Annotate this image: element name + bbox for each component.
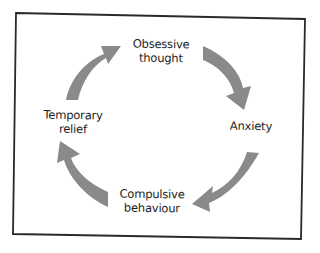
node-temporary-relief-line2: relief: [38, 122, 108, 137]
node-obsessive-thought-line2: thought: [126, 51, 196, 66]
node-anxiety-line1: Anxiety: [216, 119, 286, 134]
node-obsessive-thought: Obsessive thought: [126, 37, 196, 66]
node-compulsive-behaviour: Compulsive behaviour: [114, 186, 190, 215]
node-compulsive-behaviour-line2: behaviour: [114, 200, 190, 215]
node-obsessive-thought-line1: Obsessive: [126, 37, 196, 52]
node-anxiety: Anxiety: [216, 119, 286, 134]
node-compulsive-behaviour-line1: Compulsive: [114, 186, 190, 201]
node-temporary-relief-line1: Temporary: [38, 108, 108, 123]
node-temporary-relief: Temporary relief: [38, 108, 108, 137]
